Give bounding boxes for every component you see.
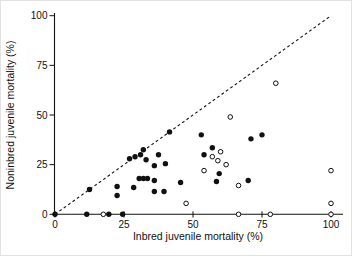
data-point-filled <box>132 154 137 159</box>
y-tick-label: 0 <box>42 209 48 220</box>
data-point-filled <box>84 212 89 217</box>
x-tick-label: 75 <box>256 219 268 230</box>
data-point-filled <box>156 152 161 157</box>
y-tick-label: 75 <box>36 60 48 71</box>
data-point-open <box>216 158 221 163</box>
data-point-open <box>228 115 233 120</box>
data-point-filled <box>152 189 157 194</box>
y-axis-label: Noninbred juvenile mortality (%) <box>4 41 16 190</box>
plot-canvas: 02550751000255075100 Inbred juvenile mor… <box>1 1 352 256</box>
x-tick-label: 50 <box>187 219 199 230</box>
x-tick-label: 25 <box>118 219 130 230</box>
data-point-open <box>329 201 334 206</box>
data-point-filled <box>152 163 157 168</box>
data-point-open <box>274 81 279 86</box>
y-tick-label: 100 <box>31 10 48 21</box>
data-point-filled <box>52 212 57 217</box>
data-point-filled <box>131 185 136 190</box>
data-point-filled <box>259 132 264 137</box>
data-point-filled <box>145 176 150 181</box>
data-point-filled <box>167 129 172 134</box>
data-point-open <box>224 162 229 167</box>
data-point-open <box>218 149 223 154</box>
data-point-filled <box>161 189 166 194</box>
data-point-filled <box>141 147 146 152</box>
data-point-filled <box>120 212 125 217</box>
data-point-open <box>329 212 334 217</box>
data-point-filled <box>114 184 119 189</box>
data-point-filled <box>138 152 143 157</box>
data-point-filled <box>199 132 204 137</box>
data-point-open <box>184 201 189 206</box>
y-tick-label: 50 <box>36 110 48 121</box>
data-point-filled <box>114 193 119 198</box>
data-point-filled <box>178 180 183 185</box>
data-point-filled <box>217 171 222 176</box>
data-point-filled <box>201 152 206 157</box>
data-point-filled <box>163 161 168 166</box>
data-point-open <box>268 212 273 217</box>
data-point-filled <box>127 156 132 161</box>
identity-line <box>55 16 331 215</box>
data-point-open <box>329 168 334 173</box>
identity-line-group <box>55 16 331 215</box>
data-point-filled <box>214 179 219 184</box>
scatter-figure: 02550751000255075100 Inbred juvenile mor… <box>0 0 352 256</box>
data-point-open <box>101 212 106 217</box>
data-point-filled <box>246 178 251 183</box>
data-point-filled <box>152 178 157 183</box>
data-point-filled <box>106 212 111 217</box>
x-axis-label: Inbred juvenile mortality (%) <box>133 230 263 242</box>
plot-axes: 02550751000255075100 <box>31 10 343 230</box>
x-tick-label: 0 <box>52 219 58 230</box>
data-point-open <box>236 212 241 217</box>
data-point-filled <box>143 157 148 162</box>
data-point-open <box>210 154 215 159</box>
data-point-filled <box>210 145 215 150</box>
data-point-filled <box>87 187 92 192</box>
data-point-open <box>202 168 207 173</box>
data-point-open <box>236 183 241 188</box>
x-tick-label: 100 <box>323 219 340 230</box>
data-points <box>52 81 333 217</box>
y-tick-label: 25 <box>36 159 48 170</box>
data-point-filled <box>248 136 253 141</box>
